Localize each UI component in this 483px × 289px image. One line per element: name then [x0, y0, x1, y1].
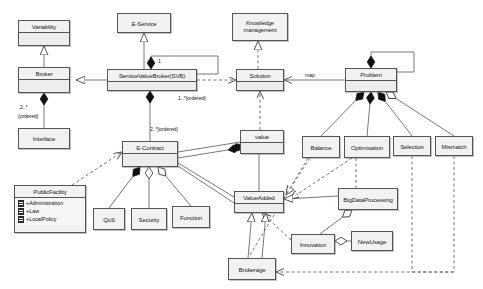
class-name-valueadded: ValueAdded [235, 192, 283, 204]
class-name-eservice: E-Service [118, 14, 170, 32]
class-name-qos: QoS [94, 209, 124, 229]
class-name-brokerage: Brokerage [229, 259, 275, 279]
class-body-broker [19, 80, 69, 92]
class-name-optimisation: Optimisation [345, 137, 389, 157]
class-box-bigdataprocessing[interactable]: BigDataProcessing [338, 188, 398, 210]
class-name-variability: Variability [19, 21, 69, 33]
class-box-publicfacility[interactable]: PublicFacility +Administration +Law +Loc… [14, 185, 86, 233]
attribute-row: +Administration [18, 200, 83, 208]
class-name-publicfacility: PublicFacility [15, 186, 85, 198]
class-name-selection: Selection [394, 137, 430, 155]
attribute-row: +Law [18, 208, 83, 216]
attribute-icon [18, 208, 24, 215]
class-box-value[interactable]: value [240, 130, 284, 154]
class-name-problem: Problem [346, 69, 396, 81]
class-name-solution: Solution [237, 70, 283, 82]
class-box-mismatch[interactable]: Mismatch [435, 136, 473, 156]
class-box-function[interactable]: Function [172, 206, 210, 228]
class-body-servicevaluebroker [108, 82, 196, 90]
class-name-newusage: NewUsage [352, 232, 392, 250]
attribute-icon [18, 216, 24, 223]
class-body-econtract [123, 154, 177, 166]
attribute-icon [18, 200, 24, 207]
class-name-bigdataprocessing: BigDataProcessing [339, 189, 397, 209]
class-box-knowledge-management[interactable]: Knowledge management [232, 13, 288, 41]
class-box-problem[interactable]: Problem [345, 68, 397, 92]
class-name-econtract: E-Contract [123, 142, 177, 154]
class-box-qos[interactable]: QoS [93, 208, 125, 230]
class-name-balance: Balance [303, 137, 339, 157]
class-body-solution [237, 82, 283, 90]
edge-label-svb-self-multiplicity: 1 [158, 58, 161, 64]
class-name-broker: Broker [19, 68, 69, 80]
class-box-selection[interactable]: Selection [393, 136, 431, 156]
attribute-row: +LocalPolicy [18, 216, 83, 224]
class-box-newusage[interactable]: NewUsage [351, 231, 393, 251]
edge-label-broker-interface-ordered: {ordered} [18, 113, 38, 119]
class-body-problem [346, 81, 396, 91]
edge-label-broker-interface-multiplicity: 2..* [20, 104, 27, 110]
class-box-optimisation[interactable]: Optimisation [344, 136, 390, 158]
class-body-value [241, 143, 283, 153]
class-name-security: Security [132, 209, 166, 229]
class-box-broker[interactable]: Broker [18, 67, 70, 93]
class-name-servicevaluebroker: ServiceValueBroker(SVB) [108, 70, 196, 82]
class-box-servicevaluebroker[interactable]: ServiceValueBroker(SVB) [107, 69, 197, 91]
class-body-valueadded [235, 204, 283, 212]
class-box-interface[interactable]: Interface [18, 128, 70, 149]
class-box-solution[interactable]: Solution [236, 69, 284, 91]
edge-label-econtract-ordered: 2..*{ordered} [150, 126, 178, 132]
attribute-label: +LocalPolicy [26, 216, 56, 224]
class-box-innovation[interactable]: Innovation [291, 234, 335, 254]
class-name-innovation: Innovation [292, 235, 334, 253]
uml-diagram-canvas: Variability Broker Interface PublicFacil… [0, 0, 483, 289]
class-body-variability [19, 33, 69, 45]
class-box-eservice[interactable]: E-Service [117, 13, 171, 33]
class-box-brokerage[interactable]: Brokerage [228, 258, 276, 280]
class-box-security[interactable]: Security [131, 208, 167, 230]
attribute-label: +Law [26, 208, 39, 216]
attribute-label: +Administration [26, 200, 63, 208]
class-box-variability[interactable]: Variability [18, 20, 70, 46]
class-name-knowledge-management: Knowledge management [233, 14, 287, 40]
class-name-interface: Interface [19, 129, 69, 148]
class-attributes-publicfacility: +Administration +Law +LocalPolicy [15, 198, 85, 225]
class-name-value: value [241, 131, 283, 143]
class-box-balance[interactable]: Balance [302, 136, 340, 158]
class-name-mismatch: Mismatch [436, 137, 472, 155]
class-name-function: Function [173, 207, 209, 227]
class-box-valueadded[interactable]: ValueAdded [234, 191, 284, 213]
class-box-econtract[interactable]: E-Contract [122, 141, 178, 167]
edge-label-svb-ordered: 1..*{ordered} [178, 95, 206, 101]
edge-label-solution-problem-map: map [305, 72, 315, 78]
